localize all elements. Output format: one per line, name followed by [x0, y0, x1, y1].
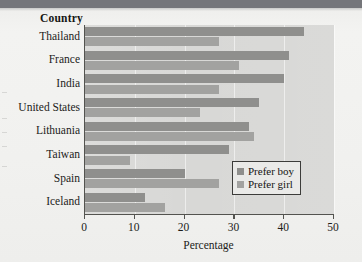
x-tick-30 — [233, 214, 234, 219]
x-tick-label-10: 10 — [116, 221, 152, 233]
bar-taiwan-prefer-girl — [85, 156, 130, 165]
category-label-thailand: Thailand — [0, 31, 80, 43]
bar-iceland-prefer-girl — [85, 203, 165, 212]
category-label-united-states: United States — [0, 102, 80, 114]
category-label-india: India — [0, 78, 80, 90]
category-label-france: France — [0, 54, 80, 66]
x-tick-label-20: 20 — [166, 221, 202, 233]
bar-thailand-prefer-boy — [85, 27, 304, 36]
chart-legend: Prefer boyPrefer girl — [232, 161, 301, 195]
x-tick-20 — [184, 214, 185, 219]
category-label-taiwan: Taiwan — [0, 149, 80, 161]
x-tick-10 — [134, 214, 135, 219]
y-axis-title: Country — [40, 12, 83, 24]
gridline-50 — [334, 25, 335, 214]
legend-label-boy: Prefer boy — [248, 166, 294, 177]
bar-india-prefer-girl — [85, 85, 219, 94]
category-label-iceland: Iceland — [0, 196, 80, 208]
bar-lithuania-prefer-boy — [85, 122, 249, 131]
category-label-spain: Spain — [0, 173, 80, 185]
x-tick-0 — [84, 214, 85, 219]
bar-chart: Country ThailandFranceIndiaUnited States… — [0, 0, 362, 262]
legend-item-boy: Prefer boy — [237, 165, 294, 178]
x-tick-label-50: 50 — [315, 221, 351, 233]
legend-item-girl: Prefer girl — [237, 178, 294, 191]
bar-thailand-prefer-girl — [85, 37, 219, 46]
bar-united-states-prefer-girl — [85, 108, 200, 117]
legend-label-girl: Prefer girl — [248, 179, 293, 190]
x-tick-label-30: 30 — [215, 221, 251, 233]
bar-france-prefer-girl — [85, 61, 239, 70]
bar-taiwan-prefer-boy — [85, 145, 229, 154]
x-axis-title: Percentage — [84, 239, 333, 251]
legend-swatch-boy — [237, 168, 244, 175]
legend-swatch-girl — [237, 181, 244, 188]
x-tick-label-40: 40 — [265, 221, 301, 233]
x-tick-40 — [283, 214, 284, 219]
bar-spain-prefer-girl — [85, 179, 219, 188]
bar-iceland-prefer-boy — [85, 193, 145, 202]
bar-spain-prefer-boy — [85, 169, 185, 178]
bar-india-prefer-boy — [85, 74, 284, 83]
bar-lithuania-prefer-girl — [85, 132, 254, 141]
bar-france-prefer-boy — [85, 51, 289, 60]
x-tick-50 — [333, 214, 334, 219]
bar-united-states-prefer-boy — [85, 98, 259, 107]
category-label-lithuania: Lithuania — [0, 125, 80, 137]
x-tick-label-0: 0 — [66, 221, 102, 233]
